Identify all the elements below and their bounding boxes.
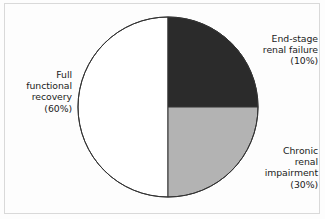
slice-label-percentage: (30%) [218,179,318,190]
slice-label-line: recovery [8,91,72,102]
slice-label-line: renal [218,156,318,167]
pie-chart-figure: Full functional recovery (60%) End-stage… [0,0,325,219]
slice-label-line: Full [8,69,72,80]
slice-label-chronic-renal-impairment: Chronic renal impairment (30%) [218,145,318,190]
slice-label-full-functional-recovery: Full functional recovery (60%) [8,69,72,114]
slice-label-line: Chronic [218,145,318,156]
slice-label-percentage: (10%) [222,55,318,66]
slice-label-line: functional [8,80,72,91]
slice-label-percentage: (60%) [8,103,72,114]
slice-label-line: impairment [218,167,318,178]
slice-label-line: End-stage [222,33,318,44]
slice-label-line: renal failure [222,44,318,55]
slice-label-end-stage-renal-failure: End-stage renal failure (10%) [222,33,318,67]
pie-slice-full-functional-recovery [78,17,168,197]
